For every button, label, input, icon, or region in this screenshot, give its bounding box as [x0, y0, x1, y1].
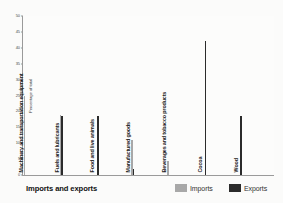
- bar-exports: [240, 116, 242, 175]
- legend-label-imports: Imports: [190, 185, 213, 192]
- y-axis-tick-label: 0: [18, 173, 20, 177]
- category-label: Machinery and transportation equipment: [18, 73, 23, 172]
- chart-footer: Imports and exports Imports Exports: [0, 180, 283, 203]
- y-axis-tick-label: 45: [16, 30, 20, 34]
- category-label: Beverages and tobacco products: [162, 91, 167, 172]
- legend-swatch-imports: [175, 184, 187, 192]
- y-axis-tick-label: 50: [16, 14, 20, 18]
- legend-swatch-exports: [229, 184, 241, 192]
- bar-exports: [97, 116, 99, 175]
- plot-area: Machinery and transportation equipmentFu…: [23, 16, 274, 175]
- category-label: Manufactured goods: [126, 122, 131, 172]
- category-label: Cocoa: [198, 156, 203, 172]
- bar-group: Cocoa: [202, 16, 238, 175]
- bar-exports: [133, 169, 135, 175]
- bar-group: Wood: [238, 16, 274, 175]
- chart-figure: Percentage of total 05101520253035404550…: [0, 0, 283, 203]
- category-label: Food and live animals: [90, 119, 95, 172]
- plot-frame: Percentage of total 05101520253035404550…: [22, 16, 274, 176]
- y-axis-tick-label: 35: [16, 62, 20, 66]
- bar-group: Beverages and tobacco products: [166, 16, 202, 175]
- bar-exports: [61, 116, 63, 175]
- bar-imports: [167, 161, 169, 175]
- legend-label-exports: Exports: [244, 185, 267, 192]
- legend-item-imports: Imports: [175, 184, 213, 192]
- category-label: Fuels and lubricants: [54, 123, 59, 172]
- bar-exports: [205, 41, 207, 175]
- x-axis-title: Imports and exports: [26, 184, 97, 193]
- y-axis-tick-label: 40: [16, 46, 20, 50]
- legend-item-exports: Exports: [229, 184, 267, 192]
- category-label: Wood: [233, 158, 238, 172]
